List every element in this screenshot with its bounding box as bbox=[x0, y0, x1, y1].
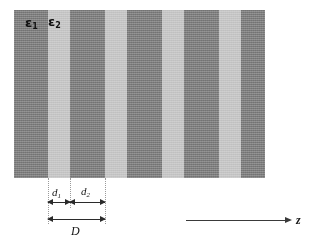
dimension-arrow-d2-right bbox=[100, 199, 106, 205]
dimension-arrow-d2-left bbox=[69, 199, 75, 205]
d2-symbol: d bbox=[81, 185, 87, 197]
dimension-arrow-d1-left bbox=[47, 199, 53, 205]
dimension-label-d2: d2 bbox=[81, 186, 90, 197]
period-symbol: D bbox=[71, 224, 80, 238]
dimension-line-period bbox=[48, 219, 105, 220]
eps2-subscript: 2 bbox=[55, 21, 61, 30]
dimension-arrow-period-left bbox=[47, 216, 53, 222]
z-axis-line bbox=[186, 220, 286, 221]
stripe-eps2-7 bbox=[219, 10, 241, 178]
stripe-eps1-6 bbox=[184, 10, 219, 178]
d1-symbol: d bbox=[52, 186, 58, 198]
eps1-subscript: 1 bbox=[32, 22, 38, 31]
d2-subscript: 2 bbox=[87, 191, 91, 199]
permittivity-label-eps1: ε1 bbox=[25, 16, 38, 29]
stripe-eps1-2 bbox=[70, 10, 105, 178]
multilayer-figure: ε1 ε2 d1 d2 D z bbox=[0, 0, 314, 243]
d1-subscript: 1 bbox=[58, 192, 62, 200]
periodic-stripe-block bbox=[14, 10, 265, 178]
stripe-eps2-3 bbox=[105, 10, 127, 178]
z-axis-label: z bbox=[296, 214, 301, 226]
stripe-eps2-1 bbox=[48, 10, 70, 178]
dimension-label-d1: d1 bbox=[52, 187, 61, 198]
stripe-eps1-4 bbox=[127, 10, 162, 178]
stripe-eps1-8 bbox=[241, 10, 265, 178]
dimension-arrow-period-right bbox=[100, 216, 106, 222]
stripe-eps2-5 bbox=[162, 10, 184, 178]
z-axis-arrowhead-icon bbox=[285, 217, 292, 223]
permittivity-label-eps2: ε2 bbox=[48, 15, 61, 28]
dimension-label-period: D bbox=[71, 225, 80, 237]
stripe-eps1-0 bbox=[14, 10, 48, 178]
